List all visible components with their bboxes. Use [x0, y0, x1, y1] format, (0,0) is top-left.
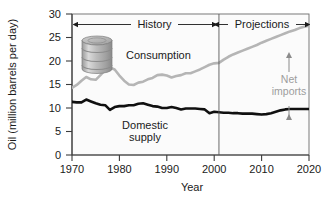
- y-axis-title: Oil (million barrels per day): [6, 19, 18, 150]
- y-tick-5: 5: [55, 125, 61, 137]
- x-tick-2000: 2000: [202, 163, 226, 175]
- x-tick-1970: 1970: [60, 163, 84, 175]
- projections-label: Projections: [235, 18, 290, 30]
- y-axis-ticks: [66, 14, 72, 155]
- y-tick-labels: 0 5 10 15 20 25 30: [49, 8, 61, 161]
- y-tick-25: 25: [49, 31, 61, 43]
- y-tick-0: 0: [55, 149, 61, 161]
- y-tick-10: 10: [49, 102, 61, 114]
- y-tick-15: 15: [49, 78, 61, 90]
- x-tick-labels: 1970 1980 1990 2000 2010 2020: [60, 163, 321, 175]
- x-axis-ticks: [72, 155, 309, 161]
- x-tick-1980: 1980: [107, 163, 131, 175]
- y-tick-30: 30: [49, 8, 61, 20]
- chart-figure: 0 5 10 15 20 25 30 1970 1980 1990 2000 2…: [0, 0, 334, 203]
- domestic-label-line2: supply: [129, 131, 161, 143]
- domestic-label-line1: Domestic: [122, 119, 168, 131]
- x-tick-2010: 2010: [249, 163, 273, 175]
- net-imports-label-line1: Net: [281, 73, 297, 85]
- oil-barrel-icon: [82, 36, 112, 74]
- x-axis-title: Year: [181, 181, 204, 193]
- x-tick-2020: 2020: [297, 163, 321, 175]
- history-label: History: [137, 18, 172, 30]
- net-imports-label-line2: imports: [272, 85, 306, 97]
- y-tick-20: 20: [49, 55, 61, 67]
- oil-supply-consumption-chart: 0 5 10 15 20 25 30 1970 1980 1990 2000 2…: [0, 0, 334, 203]
- consumption-label: Consumption: [126, 49, 191, 61]
- x-tick-1990: 1990: [155, 163, 179, 175]
